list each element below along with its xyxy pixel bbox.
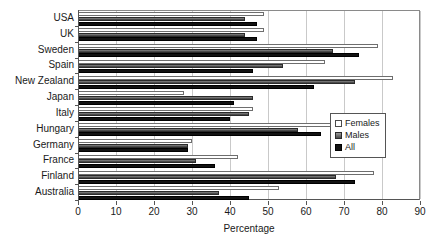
bar-females: [78, 186, 279, 190]
bar-group: [78, 59, 419, 75]
category-label-japan: Japan: [0, 92, 74, 102]
legend-swatch-all-icon: [335, 144, 342, 151]
bar-group: [78, 43, 419, 59]
bar-group: [78, 90, 419, 106]
legend-item-males: Males: [335, 130, 380, 141]
bar-males: [78, 112, 249, 116]
bar-females: [78, 12, 264, 16]
category-label-usa: USA: [0, 13, 74, 23]
category-label-france: France: [0, 155, 74, 165]
legend-label: Females: [345, 119, 380, 128]
y-axis-tick: [75, 105, 78, 106]
y-axis-tick: [75, 168, 78, 169]
x-axis-tick-label: 70: [329, 206, 359, 217]
y-axis-tick: [75, 121, 78, 122]
x-axis-tick: [154, 201, 155, 205]
x-axis-tick-label: 60: [291, 206, 321, 217]
bar-females: [78, 123, 333, 127]
bar-group: [78, 185, 419, 201]
bar-group: [78, 169, 419, 185]
bar-females: [78, 107, 253, 111]
bar-females: [78, 91, 184, 95]
bar-females: [78, 155, 238, 159]
legend-swatch-females-icon: [335, 120, 342, 127]
y-axis-tick: [75, 89, 78, 90]
x-axis-tick: [78, 201, 79, 205]
horizontal-bar-chart: USAUKSwedenSpainNew ZealandJapanItalyHun…: [0, 0, 447, 249]
bar-males: [78, 159, 196, 163]
bar-group: [78, 74, 419, 90]
bar-females: [78, 28, 264, 32]
y-axis-tick: [75, 73, 78, 74]
bar-all: [78, 148, 188, 152]
bar-all: [78, 53, 359, 57]
x-axis-tick: [382, 201, 383, 205]
y-axis-category-labels: USAUKSwedenSpainNew ZealandJapanItalyHun…: [0, 10, 74, 200]
bar-females: [78, 139, 192, 143]
y-axis-tick: [75, 184, 78, 185]
x-axis-tick-label: 80: [367, 206, 397, 217]
bar-all: [78, 101, 234, 105]
category-label-italy: Italy: [0, 108, 74, 118]
y-axis-tick: [75, 42, 78, 43]
bar-all: [78, 196, 249, 200]
bar-group: [78, 11, 419, 27]
bar-rows: [78, 11, 419, 199]
bar-all: [78, 37, 257, 41]
x-axis-tick: [306, 201, 307, 205]
bar-males: [78, 191, 219, 195]
legend: FemalesMalesAll: [330, 113, 386, 158]
y-axis-tick: [75, 200, 78, 201]
x-axis-tick-label: 20: [139, 206, 169, 217]
legend-label: All: [345, 143, 355, 152]
bar-females: [78, 76, 393, 80]
x-axis-tick-label: 30: [177, 206, 207, 217]
y-axis-tick: [75, 137, 78, 138]
x-axis-tick-label: 10: [101, 206, 131, 217]
bar-all: [78, 164, 215, 168]
y-axis-tick: [75, 58, 78, 59]
bar-males: [78, 33, 245, 37]
bar-all: [78, 22, 257, 26]
bar-all: [78, 69, 253, 73]
x-axis-tick-label: 40: [215, 206, 245, 217]
bar-males: [78, 128, 298, 132]
x-axis-tick: [344, 201, 345, 205]
category-label-germany: Germany: [0, 140, 74, 150]
category-label-finland: Finland: [0, 171, 74, 181]
category-label-uk: UK: [0, 29, 74, 39]
bar-males: [78, 64, 283, 68]
category-label-hungary: Hungary: [0, 124, 74, 134]
legend-item-all: All: [335, 142, 380, 153]
legend-swatch-males-icon: [335, 132, 342, 139]
x-axis-tick: [420, 201, 421, 205]
x-axis-tick: [268, 201, 269, 205]
gridline: [420, 11, 421, 199]
bar-females: [78, 171, 374, 175]
bar-males: [78, 17, 245, 21]
category-label-sweden: Sweden: [0, 45, 74, 55]
x-axis-tick: [192, 201, 193, 205]
bar-all: [78, 180, 355, 184]
y-axis-tick: [75, 153, 78, 154]
bar-males: [78, 175, 336, 179]
x-axis-tick: [116, 201, 117, 205]
category-label-australia: Australia: [0, 187, 74, 197]
bar-females: [78, 60, 325, 64]
bar-males: [78, 96, 253, 100]
legend-label: Males: [345, 131, 369, 140]
bar-all: [78, 132, 321, 136]
bar-all: [78, 117, 230, 121]
y-axis-line: [78, 10, 79, 201]
category-label-new-zealand: New Zealand: [0, 76, 74, 86]
bar-males: [78, 144, 188, 148]
x-axis-title: Percentage: [78, 223, 420, 234]
x-axis-tick: [230, 201, 231, 205]
plot-area: [78, 10, 420, 200]
bar-males: [78, 49, 333, 53]
x-axis-tick-label: 0: [63, 206, 93, 217]
category-label-spain: Spain: [0, 60, 74, 70]
legend-item-females: Females: [335, 118, 380, 129]
bar-females: [78, 44, 378, 48]
x-axis-tick-label: 90: [405, 206, 435, 217]
